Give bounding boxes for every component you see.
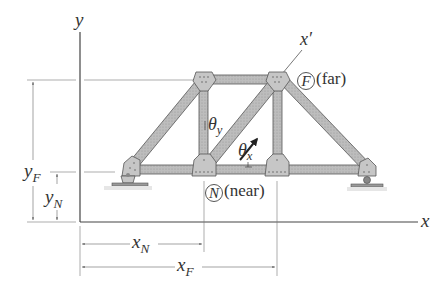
dimension-lines: [33, 82, 275, 267]
x-F-label: xF: [177, 255, 194, 274]
y-N-label: yN: [45, 187, 62, 206]
theta-x-label: θx: [238, 141, 252, 159]
y-F-label: yF: [24, 161, 41, 180]
far-point-text: (far): [316, 69, 346, 88]
near-point-marker: N: [205, 184, 223, 202]
near-point-label: N(near): [205, 182, 265, 202]
pin-support: [104, 173, 152, 190]
x-axis-label: x: [421, 211, 429, 230]
roller-support: [347, 177, 387, 192]
x-N-label: xN: [132, 232, 149, 251]
far-point-marker: F: [297, 72, 315, 90]
local-x-axis-label: x′: [300, 30, 312, 48]
y-axis-label: y: [75, 10, 83, 29]
far-point-label: F(far): [297, 70, 346, 90]
gusset-bottom-left: [122, 156, 140, 176]
near-point-text: (near): [224, 181, 265, 200]
theta-y-label: θy: [208, 115, 222, 133]
extension-lines: [27, 80, 277, 276]
diagonal-member-left: [126, 76, 207, 173]
bottom-chord: [130, 165, 368, 174]
truss-diagram: [0, 0, 441, 302]
